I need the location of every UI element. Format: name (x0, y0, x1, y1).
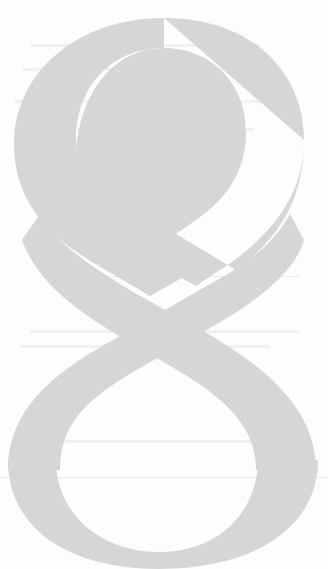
chapter-numeral-eight (0, 0, 328, 569)
document-page: 8 (0, 0, 328, 569)
